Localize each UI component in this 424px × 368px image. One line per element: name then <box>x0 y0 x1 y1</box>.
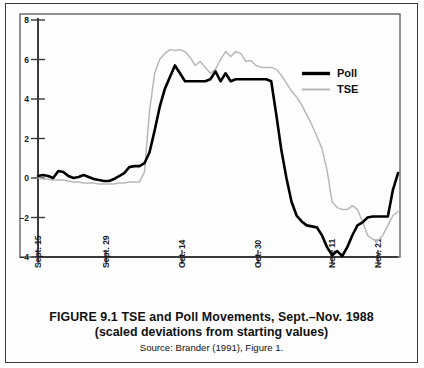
y-tick-label-8: 8 <box>24 15 29 25</box>
y-axis-labels: 8 6 4 2 0 –2 –4 <box>20 15 30 262</box>
x-tick-label-sept-29: Sept. 29 <box>101 235 111 268</box>
legend-label-tse: TSE <box>337 83 358 95</box>
x-tick-label-oct-14: Oct. 14 <box>177 239 187 268</box>
caption-source: Source: Brander (1991), Figure 1. <box>6 341 417 354</box>
y-tick-label-4: 4 <box>24 94 29 104</box>
y-tick-label-2: 2 <box>24 134 29 144</box>
chart-legend: Poll TSE <box>302 67 358 95</box>
legend-label-poll: Poll <box>337 67 357 79</box>
plot-box <box>20 14 400 257</box>
y-tick-label-0: 0 <box>24 173 29 183</box>
y-tick-label-neg2: –2 <box>20 213 30 223</box>
x-tick-label-nov-21: Nov. 21 <box>373 238 383 268</box>
y-tick-label-6: 6 <box>24 55 29 65</box>
caption-line-1: FIGURE 9.1 TSE and Poll Movements, Sept.… <box>6 310 417 325</box>
x-tick-label-oct-30: Oct. 30 <box>253 239 263 268</box>
x-tick-label-sept-15: Sept. 15 <box>33 235 43 268</box>
caption-line-2: (scaled deviations from starting values) <box>6 325 417 340</box>
y-tick-label-neg4: –4 <box>20 252 30 262</box>
figure-caption: FIGURE 9.1 TSE and Poll Movements, Sept.… <box>6 310 417 354</box>
